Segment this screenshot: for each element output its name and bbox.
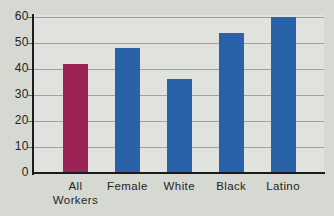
y-axis-label-0: 0 [2,165,29,179]
y-axis-label-60: 60 [2,9,29,23]
x-axis-label-latino: Latino [243,179,323,193]
x-axis-line [32,172,325,174]
y-axis-label-30: 30 [2,87,29,101]
y-axis-label-10: 10 [2,139,29,153]
y-axis-label-40: 40 [2,61,29,75]
y-axis-label-50: 50 [2,35,29,49]
bar-chart: 0102030405060AllWorkersFemaleWhiteBlackL… [0,0,334,216]
bar-latino [271,17,296,173]
bar-all-workers [63,64,88,173]
bar-black [219,33,244,173]
y-axis-label-20: 20 [2,113,29,127]
y-axis-line [32,14,34,175]
bar-female [115,48,140,173]
bar-white [167,79,192,173]
